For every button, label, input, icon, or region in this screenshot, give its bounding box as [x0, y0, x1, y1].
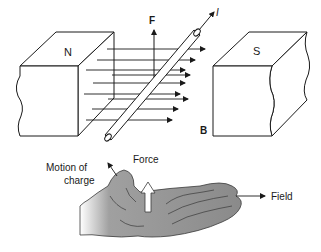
north-label: N — [64, 46, 72, 58]
motion-label-line2: charge — [64, 175, 95, 186]
motion-arrow — [108, 163, 117, 176]
magnetic-force-diagram: N F I S B — [0, 0, 321, 252]
force-label-f: F — [149, 15, 155, 26]
south-label: S — [253, 45, 260, 57]
south-magnet — [213, 32, 310, 136]
current-arrow — [199, 12, 214, 30]
wire-conductor — [104, 28, 202, 142]
field-label-b: B — [200, 125, 207, 136]
motion-label-line1: Motion of — [46, 162, 87, 173]
current-label: I — [216, 7, 219, 18]
hand-field-label: Field — [271, 191, 293, 202]
hand-force-label: Force — [133, 154, 159, 165]
right-hand-illustration — [80, 170, 241, 237]
